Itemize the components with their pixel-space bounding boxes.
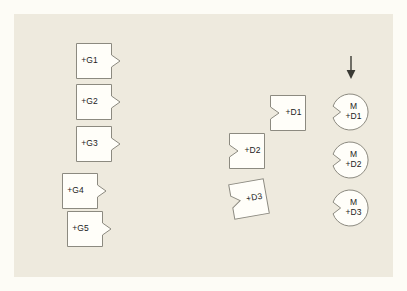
circle-left-notch-icon — [332, 94, 368, 130]
puzzle-right-notch-icon — [76, 126, 122, 162]
shape-d1[interactable]: +D1 — [270, 95, 306, 131]
shape-d2[interactable]: +D2 — [229, 133, 265, 169]
shape-d3[interactable]: +D3 — [228, 178, 270, 220]
circle-left-notch-icon — [332, 190, 368, 226]
diagram-canvas: +G1 +G2 +G3 +G4 +G5 — [0, 0, 407, 291]
shape-g4[interactable]: +G4 — [62, 173, 98, 209]
puzzle-right-notch-icon — [67, 211, 113, 247]
shape-g3[interactable]: +G3 — [76, 126, 112, 162]
shape-g1[interactable]: +G1 — [76, 43, 112, 79]
puzzle-right-notch-icon — [76, 84, 122, 120]
circle-left-notch-icon — [332, 142, 368, 178]
puzzle-left-tab-icon — [228, 178, 270, 220]
shape-g2[interactable]: +G2 — [76, 84, 112, 120]
puzzle-left-tab-icon — [229, 133, 265, 169]
puzzle-left-tab-icon — [270, 95, 306, 131]
shape-g5[interactable]: +G5 — [67, 211, 103, 247]
puzzle-right-notch-icon — [62, 173, 108, 209]
puzzle-right-notch-icon — [76, 43, 122, 79]
shape-m-d1[interactable]: M +D1 — [332, 94, 368, 130]
down-arrow-icon — [344, 56, 358, 80]
shape-m-d2[interactable]: M +D2 — [332, 142, 368, 178]
shape-m-d3[interactable]: M +D3 — [332, 190, 368, 226]
